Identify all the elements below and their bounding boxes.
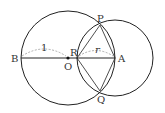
label-B: B	[11, 53, 18, 64]
label-Q: Q	[97, 94, 105, 105]
label-R: R	[70, 47, 78, 58]
label-A: A	[117, 53, 126, 64]
label-O: O	[64, 61, 72, 72]
label-length-r: r	[95, 44, 101, 55]
segment-PA	[100, 25, 115, 58]
segment-AQ	[100, 58, 115, 91]
label-P: P	[97, 13, 104, 24]
geometry-diagram: B O R A P Q 1 r	[0, 0, 165, 113]
label-length-1: 1	[41, 42, 47, 53]
